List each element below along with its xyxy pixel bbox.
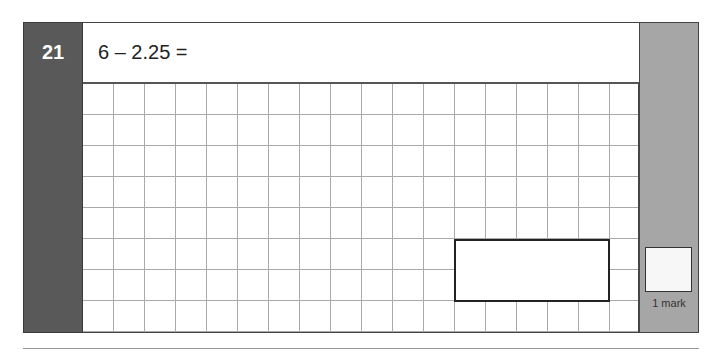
answer-box[interactable] — [454, 239, 610, 302]
page-divider — [23, 348, 699, 349]
question-prompt-area: 6 – 2.25 = — [83, 22, 639, 84]
question-number: 21 — [24, 41, 82, 64]
marks-label: 1 mark — [639, 297, 699, 309]
question-text: 6 – 2.25 = — [98, 41, 188, 64]
mark-box — [645, 247, 692, 292]
question-number-panel: 21 — [23, 22, 83, 333]
